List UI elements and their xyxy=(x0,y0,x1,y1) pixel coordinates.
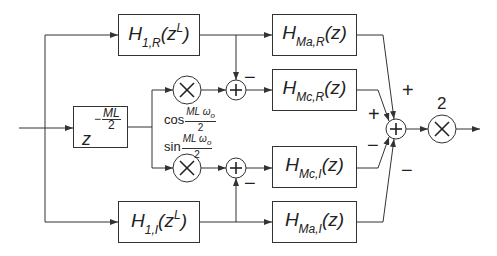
sign-bottom-adder: − xyxy=(244,173,256,193)
delay-base: z xyxy=(82,131,91,147)
block-hma-i: HMa,I(z) xyxy=(272,201,357,243)
delay-exponent: − ML2 xyxy=(94,108,121,131)
sign-final-hmci: − xyxy=(367,135,379,155)
block-h1-r-label: H1,R(zL) xyxy=(128,21,189,50)
block-hma-r-label: HMa,R(z) xyxy=(282,22,347,49)
block-hmc-i: HMc,I(z) xyxy=(272,146,357,188)
block-h1-i: H1,I(zL) xyxy=(118,201,200,243)
block-hmc-r: HMc,R(z) xyxy=(272,69,357,111)
block-hma-i-label: HMa,I(z) xyxy=(285,209,344,236)
cos-modulator-label: cos ML ωo2 xyxy=(164,106,216,133)
block-hmc-r-label: HMc,R(z) xyxy=(283,77,347,104)
sin-modulator-label: sin ML ωo2 xyxy=(164,133,212,160)
block-hma-r: HMa,R(z) xyxy=(272,14,357,56)
block-h1-r: H1,R(zL) xyxy=(118,14,200,56)
block-delay: − ML2 z xyxy=(73,106,128,148)
sign-final-hmai: − xyxy=(401,160,413,180)
sign-final-hmcr: + xyxy=(368,104,380,124)
gain-label: 2 xyxy=(437,94,446,114)
block-hmc-i-label: HMc,I(z) xyxy=(285,154,344,181)
sign-final-hmar: + xyxy=(402,80,414,100)
block-h1-i-label: H1,I(zL) xyxy=(131,208,187,237)
sign-top-adder: − xyxy=(244,67,256,87)
